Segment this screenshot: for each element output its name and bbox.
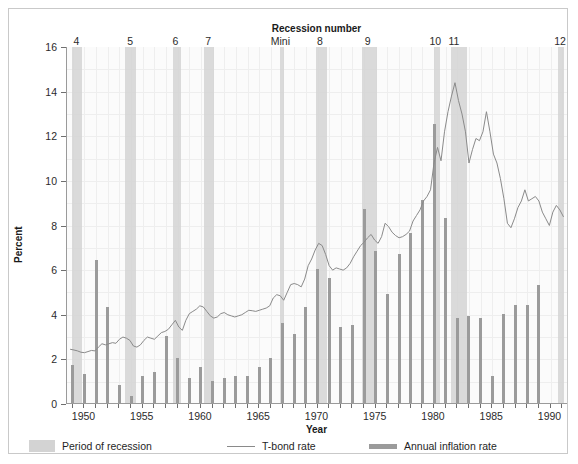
x-tick-mark [410, 404, 411, 408]
plot-area [66, 47, 567, 404]
x-tick-mark [351, 404, 352, 408]
x-tick-label: 1960 [188, 410, 211, 422]
x-tick-mark [165, 404, 166, 408]
t-bond-rate-line [67, 47, 567, 404]
y-tick-label: 16 [45, 41, 57, 53]
legend-item: T-bond rate [227, 437, 316, 455]
x-tick-label: 1950 [72, 410, 95, 422]
x-tick-mark [293, 404, 294, 408]
x-tick-mark [200, 404, 201, 408]
x-tick-mark [433, 404, 434, 408]
legend-item: Annual inflation rate [369, 437, 497, 455]
x-tick-mark [95, 404, 96, 408]
x-tick-mark [153, 404, 154, 408]
recession-number-label: Mini [271, 35, 290, 47]
x-tick-mark [142, 404, 143, 408]
x-tick-mark [363, 404, 364, 408]
x-tick-mark [538, 404, 539, 408]
x-tick-mark [340, 404, 341, 408]
x-tick-mark [503, 404, 504, 408]
x-tick-label: 1975 [363, 410, 386, 422]
y-tick-label: 10 [45, 175, 57, 187]
recession-number-label: 11 [449, 35, 460, 47]
y-tick-label: 12 [45, 130, 57, 142]
x-tick-mark [317, 404, 318, 408]
legend-label: Period of recession [62, 440, 152, 452]
recession-number-label: 8 [317, 35, 323, 47]
top-axis-title: Recession number [66, 23, 567, 34]
x-tick-mark [480, 404, 481, 408]
recession-number-label: 10 [429, 35, 441, 47]
x-tick-mark [386, 404, 387, 408]
recession-number-label: 6 [173, 35, 179, 47]
x-tick-mark [235, 404, 236, 408]
figure-container: Recession number 4567Mini89101112 Percen… [0, 0, 578, 464]
x-tick-mark [107, 404, 108, 408]
x-tick-mark [72, 404, 73, 408]
chart-legend: Period of recessionT-bond rateAnnual inf… [29, 437, 469, 457]
recession-number-label: 5 [127, 35, 133, 47]
x-tick-mark [561, 404, 562, 408]
plot-wrap [66, 47, 567, 404]
x-tick-mark [282, 404, 283, 408]
x-tick-mark [118, 404, 119, 408]
x-tick-mark [258, 404, 259, 408]
x-tick-mark [456, 404, 457, 408]
legend-label: T-bond rate [262, 440, 316, 452]
y-axis-title: Percent [13, 226, 24, 263]
x-tick-mark [177, 404, 178, 408]
x-tick-label: 1955 [130, 410, 153, 422]
recession-number-label: 12 [554, 35, 566, 47]
y-tick-label: 6 [51, 264, 57, 276]
y-tick-label: 2 [51, 353, 57, 365]
legend-swatch-band-icon [29, 440, 55, 452]
figure-frame: Recession number 4567Mini89101112 Percen… [8, 8, 568, 454]
legend-label: Annual inflation rate [404, 440, 497, 452]
y-tick-label: 8 [51, 220, 57, 232]
x-tick-mark [328, 404, 329, 408]
legend-swatch-line-icon [227, 446, 255, 447]
recession-number-label: 4 [74, 35, 80, 47]
x-tick-mark [550, 404, 551, 408]
x-tick-label: 1980 [421, 410, 444, 422]
x-tick-mark [421, 404, 422, 408]
legend-swatch-bar-icon [369, 444, 397, 449]
x-tick-mark [526, 404, 527, 408]
x-tick-mark [305, 404, 306, 408]
recession-number-label: 7 [205, 35, 211, 47]
x-tick-mark [270, 404, 271, 408]
legend-item: Period of recession [29, 437, 152, 455]
y-tick-label: 14 [45, 86, 57, 98]
x-tick-mark [445, 404, 446, 408]
y-tick-label: 0 [51, 398, 57, 410]
x-tick-mark [130, 404, 131, 408]
x-tick-mark [398, 404, 399, 408]
x-tick-label: 1965 [247, 410, 270, 422]
x-tick-mark [188, 404, 189, 408]
recession-number-label: 9 [365, 35, 371, 47]
x-tick-mark [223, 404, 224, 408]
y-axis: Percent 0246810121416 [9, 47, 66, 404]
x-tick-label: 1990 [538, 410, 561, 422]
x-tick-mark [212, 404, 213, 408]
x-axis: Year 19501955196019651970197519801985199… [66, 404, 567, 434]
top-axis-recession-numbers: Recession number 4567Mini89101112 [66, 23, 567, 49]
x-tick-label: 1970 [305, 410, 328, 422]
x-tick-label: 1985 [480, 410, 503, 422]
x-tick-mark [375, 404, 376, 408]
x-tick-mark [491, 404, 492, 408]
y-tick-label: 4 [51, 309, 57, 321]
x-tick-mark [468, 404, 469, 408]
x-tick-mark [515, 404, 516, 408]
x-tick-mark [247, 404, 248, 408]
x-tick-mark [83, 404, 84, 408]
x-axis-title: Year [66, 424, 567, 435]
